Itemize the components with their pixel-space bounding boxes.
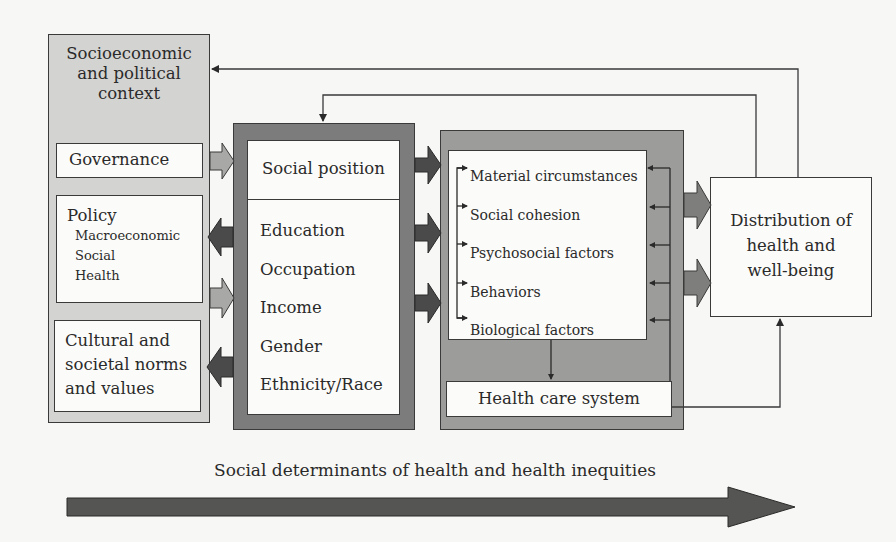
context-panel-title: Socioeconomic and political context [52,44,206,104]
intermediary-item: Material circumstances [470,157,650,196]
context-title-line-2: and political [52,64,206,84]
intermediary-item: Psychosocial factors [470,234,650,273]
determinants-footer-arrow [67,487,795,527]
arrow-policy-to-social-position [210,278,234,318]
distribution-line-3: well-being [711,258,871,283]
arrow-intermediary-to-distribution-2 [684,259,711,307]
cultural-line-1: Cultural and [65,329,200,353]
health-care-to-distribution-arrow [672,319,780,407]
policy-item-social: Social [57,246,202,266]
distribution-line-1: Distribution of [711,208,871,233]
footer-label: Social determinants of health and health… [214,460,656,480]
cultural-line-2: societal norms [65,353,200,377]
governance-label: Governance [57,144,202,170]
social-position-item: Ethnicity/Race [260,366,399,405]
arrow-intermediary-to-distribution-1 [684,181,711,229]
health-care-system-box: Health care system [446,381,672,417]
social-position-inner: Social position Education Occupation Inc… [247,140,400,415]
governance-box: Governance [56,143,203,178]
arrow-governance-to-social-position [210,143,234,179]
distribution-box: Distribution of health and well-being [710,177,872,317]
intermediary-item: Behaviors [470,273,650,312]
arrow-social-to-psychosocial [415,213,441,253]
social-position-item: Occupation [260,251,399,290]
intermediary-item: Biological factors [470,311,650,350]
intermediary-item: Social cohesion [470,196,650,235]
policy-box: Policy Macroeconomic Social Health [56,195,203,303]
social-position-title: Social position [248,141,399,200]
cultural-line-3: and values [65,377,200,401]
cultural-norms-box: Cultural and societal norms and values [54,320,201,412]
context-title-line-1: Socioeconomic [52,44,206,64]
policy-item-health: Health [57,266,202,286]
arrow-social-position-to-policy [208,218,233,256]
social-position-item: Education [260,212,399,251]
context-title-line-3: context [52,84,206,104]
social-position-item: Gender [260,328,399,367]
social-position-item: Income [260,289,399,328]
arrow-social-position-to-cultural [207,347,233,387]
health-care-system-label: Health care system [478,389,640,408]
policy-item-macroeconomic: Macroeconomic [57,226,202,246]
arrow-social-to-material [415,146,441,184]
distribution-line-2: health and [711,233,871,258]
policy-label: Policy [57,196,202,226]
arrow-social-to-biological [415,283,441,323]
